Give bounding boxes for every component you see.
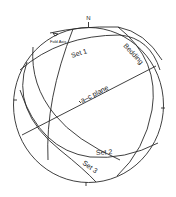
stereonet-diagram: N Fold Axis Set 1 Bedding a–c plane Set …	[0, 0, 176, 197]
fold-axis-label: Fold Axis	[50, 39, 66, 44]
set1-arc	[20, 35, 160, 70]
great-circle-middle	[33, 47, 120, 160]
set2-label: Set 2	[96, 148, 113, 156]
north-label: N	[86, 15, 90, 21]
set3-label: Set 3	[81, 159, 98, 174]
bedding-label: Bedding	[122, 42, 145, 66]
set1-label: Set 1	[70, 47, 88, 59]
fold-axis-marker	[53, 33, 58, 36]
primitive-circle	[14, 28, 164, 183]
ac-plane-label: a–c plane	[79, 84, 110, 105]
